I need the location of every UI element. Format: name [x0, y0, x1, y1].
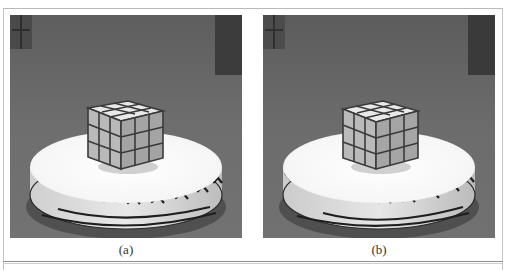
figure-bottom-rule-secondary: [3, 263, 503, 264]
rubiks-cube-turntable-photo-b: [263, 15, 495, 238]
photo-panel-b: [263, 15, 495, 238]
caption-b: (b): [263, 242, 495, 258]
photo-panel-a: [10, 15, 242, 238]
figure-bottom-rule: [3, 261, 503, 262]
caption-a: (a): [10, 242, 242, 258]
rubiks-cube-turntable-photo-a: [10, 15, 242, 238]
